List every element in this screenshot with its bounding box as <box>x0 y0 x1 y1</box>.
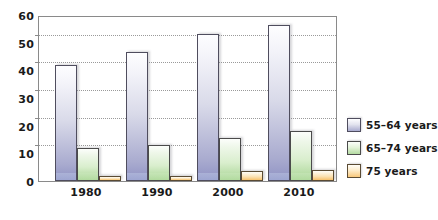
bar-2010-75[interactable] <box>312 170 334 181</box>
bar-2000-55-64[interactable] <box>197 34 219 181</box>
x-tick-label-2000: 2000 <box>212 186 243 199</box>
bar-1990-55-64[interactable] <box>126 52 148 181</box>
bar-1980-75[interactable] <box>99 176 121 182</box>
bar-base-band <box>56 173 76 180</box>
legend-label-75: 75 years <box>366 165 418 177</box>
bar-fill <box>127 53 147 180</box>
x-tick-label-1980: 1980 <box>70 186 101 199</box>
legend-swatch-75-icon <box>347 164 361 178</box>
legend-label-55-64: 55–64 years <box>366 119 438 131</box>
legend-swatch-55-64-icon <box>347 118 361 132</box>
bar-fill <box>313 171 333 180</box>
bar-fill <box>100 177 120 181</box>
bar-1980-55-64[interactable] <box>55 65 77 181</box>
plot-inner <box>39 17 336 181</box>
plot-area <box>38 16 337 182</box>
bar-fill <box>269 26 289 180</box>
bar-1990-75[interactable] <box>170 176 192 182</box>
bar-group-2000 <box>197 17 259 181</box>
x-tick-label-2010: 2010 <box>283 186 314 199</box>
y-tick-label-30: 30 <box>0 94 34 105</box>
bar-group-1990 <box>126 17 188 181</box>
bar-group-1980 <box>55 17 117 181</box>
bar-base-band <box>291 173 311 180</box>
bar-fill <box>242 172 262 180</box>
y-tick-mark-50 <box>35 35 39 36</box>
bar-2000-65-74[interactable] <box>219 138 241 181</box>
bar-base-band <box>149 173 169 180</box>
y-tick-mark-40 <box>35 62 39 63</box>
bar-base-band <box>198 173 218 180</box>
x-tick-label-1990: 1990 <box>141 186 172 199</box>
x-axis: 1980 1990 2000 2010 <box>38 186 337 208</box>
y-tick-label-50: 50 <box>0 38 34 49</box>
bar-1990-65-74[interactable] <box>148 145 170 181</box>
bar-2010-65-74[interactable] <box>290 131 312 181</box>
bar-2010-55-64[interactable] <box>268 25 290 181</box>
bar-fill <box>171 177 191 181</box>
y-tick-label-10: 10 <box>0 149 34 160</box>
legend: 55–64 years 65–74 years 75 years <box>347 113 434 182</box>
bar-base-band <box>220 173 240 180</box>
y-tick-label-40: 40 <box>0 66 34 77</box>
bar-base-band <box>269 173 289 180</box>
bar-2000-75[interactable] <box>241 171 263 181</box>
y-tick-mark-20 <box>35 118 39 119</box>
bar-base-band <box>127 173 147 180</box>
y-tick-mark-30 <box>35 90 39 91</box>
y-tick-mark-10 <box>35 145 39 146</box>
legend-item-55-64[interactable]: 55–64 years <box>347 113 434 136</box>
legend-swatch-65-74-icon <box>347 141 361 155</box>
legend-label-65-74: 65–74 years <box>366 142 438 154</box>
y-tick-label-0: 0 <box>0 177 34 188</box>
bar-1980-65-74[interactable] <box>77 148 99 181</box>
legend-item-75[interactable]: 75 years <box>347 159 434 182</box>
bar-group-2010 <box>268 17 330 181</box>
bar-fill <box>198 35 218 180</box>
bar-fill <box>56 66 76 180</box>
y-tick-label-20: 20 <box>0 121 34 132</box>
y-axis: 60 50 40 30 20 10 0 <box>0 10 34 188</box>
bar-base-band <box>78 173 98 180</box>
legend-item-65-74[interactable]: 65–74 years <box>347 136 434 159</box>
y-tick-label-60: 60 <box>0 11 34 22</box>
